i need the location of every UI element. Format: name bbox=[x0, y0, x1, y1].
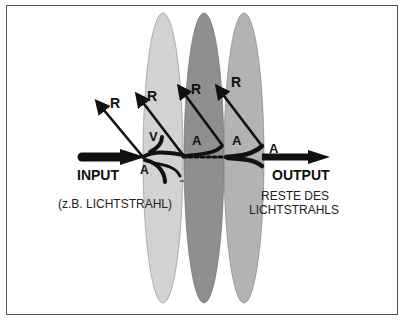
scatter-label: V bbox=[149, 129, 158, 144]
absorption-label-3: A bbox=[232, 133, 242, 148]
output-label: OUTPUT bbox=[272, 167, 330, 183]
input-note: (z.B. LICHTSTRAHL) bbox=[58, 197, 172, 211]
absorption-label-4: A bbox=[269, 141, 279, 156]
reflection-label-2: R bbox=[147, 88, 157, 104]
absorption-label-2: A bbox=[192, 133, 202, 148]
input-arrow-icon bbox=[82, 149, 145, 165]
input-label: INPUT bbox=[77, 167, 119, 183]
reflection-label-1: R bbox=[110, 95, 120, 111]
output-note-line1: RESTE DES bbox=[261, 189, 329, 203]
output-note-line2: LICHTSTRAHLS bbox=[249, 203, 339, 217]
light-layers-diagram: R R R R V A A A A INPUT (z.B. LICHTSTRAH… bbox=[0, 0, 403, 324]
layer-1-ellipse bbox=[143, 13, 183, 303]
reflection-label-3: R bbox=[191, 81, 201, 97]
absorption-label-1: A bbox=[140, 163, 149, 177]
reflection-label-4: R bbox=[231, 74, 241, 90]
